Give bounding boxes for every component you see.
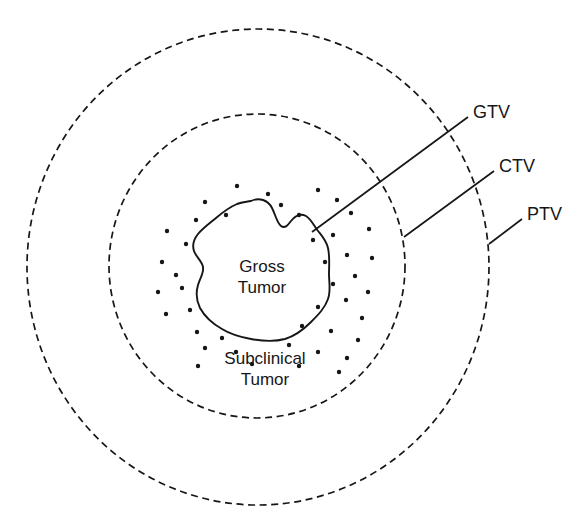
ptv-label: PTV xyxy=(527,204,562,224)
subclinical-tumor-label-line2: Tumor xyxy=(241,370,290,389)
subclinical-cell-dot xyxy=(349,211,353,215)
subclinical-cell-dot xyxy=(194,218,198,222)
subclinical-cell-dot xyxy=(316,188,320,192)
subclinical-cell-dot xyxy=(174,273,178,277)
gtv-label: GTV xyxy=(473,102,510,122)
subclinical-cell-dot xyxy=(300,324,304,328)
target-volume-canvas: Gross Tumor Subclinical Tumor GTV CTV PT… xyxy=(0,0,577,523)
subclinical-cell-dot xyxy=(311,238,315,242)
subclinical-cell-dot xyxy=(329,329,333,333)
subclinical-cell-dot xyxy=(165,229,169,233)
subclinical-cell-dot xyxy=(331,233,335,237)
subclinical-cell-dot xyxy=(180,286,184,290)
ctv-label: CTV xyxy=(499,156,535,176)
subclinical-cell-dot xyxy=(164,312,168,316)
gross-tumor-label-line2: Tumor xyxy=(238,278,287,297)
gross-tumor-label-line1: Gross xyxy=(239,257,284,276)
subclinical-cell-dot xyxy=(316,350,320,354)
subclinical-cell-dot xyxy=(345,253,349,257)
subclinical-cell-dot xyxy=(279,203,283,207)
subclinical-cell-dot xyxy=(370,256,374,260)
subclinical-cell-dot xyxy=(367,227,371,231)
subclinical-cell-dot xyxy=(203,200,207,204)
subclinical-cell-dot xyxy=(345,356,349,360)
diagram-background xyxy=(0,0,577,523)
subclinical-cell-dot xyxy=(331,282,335,286)
subclinical-cell-dot xyxy=(323,260,327,264)
subclinical-cell-dot xyxy=(360,316,364,320)
subclinical-cell-dot xyxy=(224,213,228,217)
subclinical-cell-dot xyxy=(188,308,192,312)
subclinical-cell-dot xyxy=(366,290,370,294)
subclinical-cell-dot xyxy=(316,305,320,309)
subclinical-cell-dot xyxy=(220,336,224,340)
subclinical-cell-dot xyxy=(297,213,301,217)
subclinical-cell-dot xyxy=(203,346,207,350)
subclinical-cell-dot xyxy=(266,192,270,196)
subclinical-cell-dot xyxy=(195,330,199,334)
subclinical-cell-dot xyxy=(287,343,291,347)
subclinical-cell-dot xyxy=(337,370,341,374)
subclinical-cell-dot xyxy=(344,298,348,302)
subclinical-cell-dot xyxy=(353,274,357,278)
subclinical-cell-dot xyxy=(160,260,164,264)
subclinical-cell-dot xyxy=(156,290,160,294)
subclinical-cell-dot xyxy=(235,184,239,188)
subclinical-cell-dot xyxy=(196,364,200,368)
subclinical-cell-dot xyxy=(184,242,188,246)
subclinical-cell-dot xyxy=(356,338,360,342)
subclinical-tumor-label-line1: Subclinical xyxy=(224,349,305,368)
target-volume-diagram: Gross Tumor Subclinical Tumor GTV CTV PT… xyxy=(0,0,577,523)
subclinical-cell-dot xyxy=(335,198,339,202)
